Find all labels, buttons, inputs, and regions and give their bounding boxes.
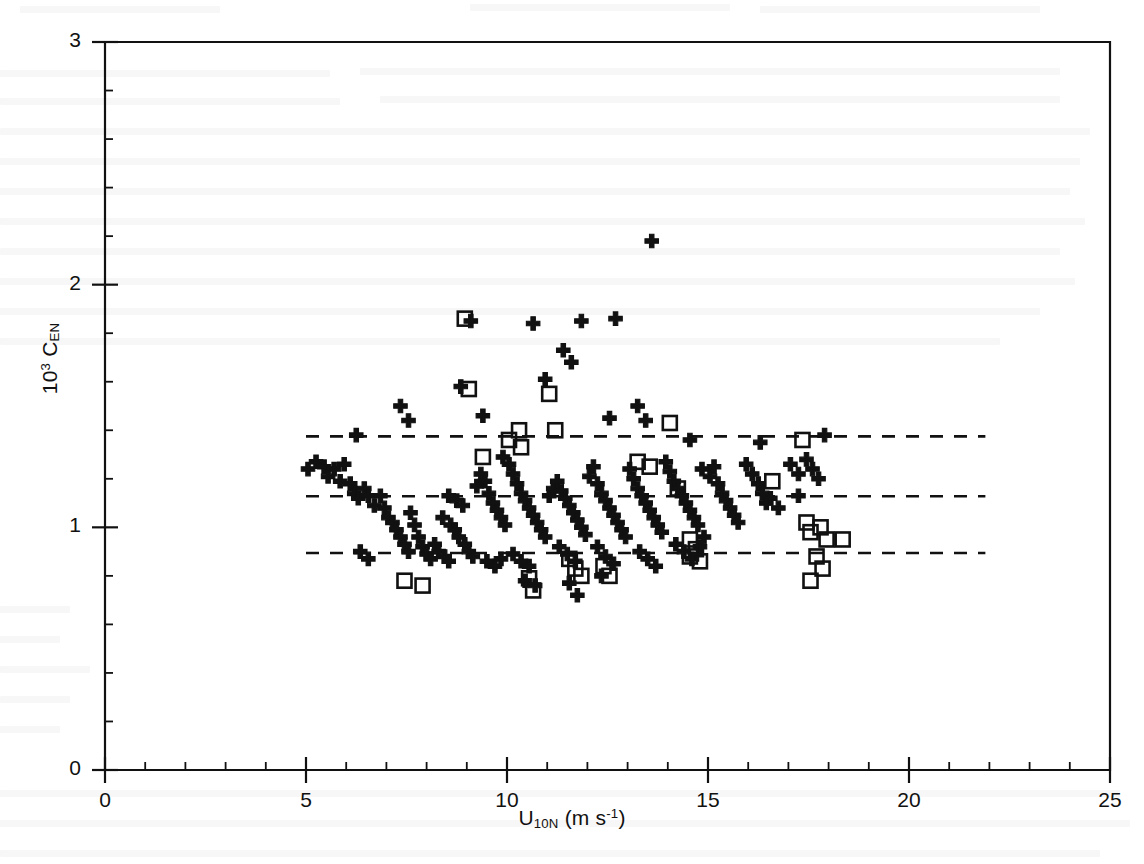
data-point-cross: [792, 467, 806, 481]
data-point-square: [799, 515, 813, 529]
x-tick-label: 10: [477, 788, 537, 812]
data-point-cross: [476, 409, 490, 423]
figure-scatter-plot: 103 CEN U10N (m s-1) 0510152025 0123: [0, 0, 1144, 864]
data-point-cross: [571, 589, 585, 603]
x-tick-label: 25: [1080, 788, 1140, 812]
y-tick-label: 2: [35, 271, 81, 295]
data-point-cross: [408, 518, 422, 532]
data-point-cross: [557, 343, 571, 357]
data-point-cross: [565, 356, 579, 370]
data-point-square: [663, 416, 677, 430]
plot-canvas: [0, 0, 1144, 864]
data-point-square: [476, 450, 490, 464]
data-point-square: [804, 525, 818, 539]
data-points: [301, 234, 849, 602]
data-point-cross: [792, 489, 806, 503]
data-point-cross: [639, 414, 653, 428]
x-tick-label: 0: [75, 788, 135, 812]
data-point-cross: [772, 501, 786, 514]
data-point-cross: [591, 540, 605, 554]
y-tick-label: 1: [35, 513, 81, 537]
x-tick-label: 20: [879, 788, 939, 812]
data-point-cross: [784, 457, 798, 471]
data-point-square: [416, 579, 430, 593]
data-point-cross: [526, 317, 540, 331]
data-point-square: [836, 532, 850, 546]
x-tick-label: 15: [678, 788, 738, 812]
y-tick-label: 3: [35, 28, 81, 52]
axis-ticks: [92, 42, 1110, 783]
data-point-cross: [350, 428, 364, 442]
data-point-cross: [609, 312, 623, 326]
data-point-square: [397, 574, 411, 588]
data-point-cross: [603, 411, 617, 425]
data-point-cross: [404, 506, 418, 519]
axes-frame: [105, 42, 1110, 770]
x-tick-label: 5: [276, 788, 336, 812]
data-point-cross: [538, 373, 552, 387]
data-point-cross: [645, 234, 659, 248]
data-point-cross: [402, 414, 416, 428]
data-point-cross: [818, 428, 832, 442]
y-tick-label: 0: [35, 756, 81, 780]
data-point-cross: [754, 436, 768, 450]
data-point-cross: [575, 314, 589, 328]
data-point-cross: [631, 399, 645, 413]
data-point-square: [765, 474, 779, 488]
data-point-square: [542, 387, 556, 401]
data-point-cross: [394, 399, 408, 413]
y-axis-title: 103 CEN: [38, 268, 63, 448]
